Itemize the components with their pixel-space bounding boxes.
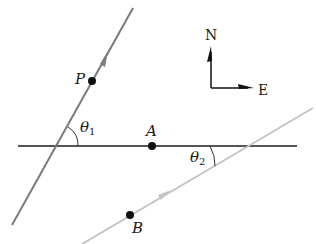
theta2-arc <box>210 146 215 166</box>
label-a: A <box>144 122 157 140</box>
theta1-arc <box>68 127 78 146</box>
label-b: B <box>131 219 143 237</box>
diagram-canvas: P A B θ1 θ2 N E <box>0 0 316 244</box>
path-b-line <box>82 108 313 244</box>
path-p-line <box>12 8 133 225</box>
label-theta2: θ2 <box>190 148 205 167</box>
north-arrow-icon <box>207 46 212 62</box>
compass: N E <box>205 27 268 98</box>
path-p-arrow-icon <box>100 51 108 67</box>
point-b <box>126 211 134 219</box>
compass-east-label: E <box>258 82 268 98</box>
label-theta1: θ1 <box>80 118 95 137</box>
point-p <box>88 77 96 85</box>
compass-north-label: N <box>205 27 217 43</box>
point-a <box>148 142 156 150</box>
east-arrow-icon <box>238 84 254 89</box>
label-p: P <box>74 70 86 88</box>
